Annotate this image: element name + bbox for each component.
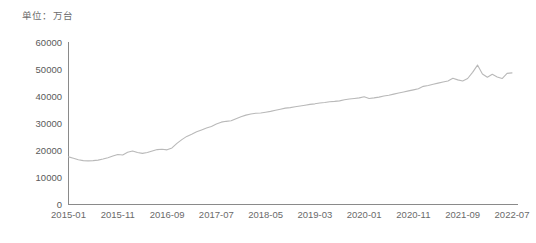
y-axis-tick-labels: 6000050000400003000020000100000 <box>36 37 62 210</box>
y-axis-tick-label: 50000 <box>36 64 62 75</box>
x-axis-tick-labels: 2015-012015-112016-092017-072018-052019-… <box>51 209 529 220</box>
y-axis-tick-label: 10000 <box>36 172 62 183</box>
x-axis-tick-label: 2018-05 <box>248 209 283 220</box>
line-chart-svg: 6000050000400003000020000100000 2015-012… <box>0 0 536 243</box>
x-axis-tick-label: 2015-11 <box>101 209 135 220</box>
y-axis-tick-label: 40000 <box>36 91 62 102</box>
x-axis-tick-label: 2015-01 <box>51 209 86 220</box>
chart-container: 单位：万台 6000050000400003000020000100000 20… <box>0 0 536 243</box>
y-axis-tick-label: 30000 <box>36 118 62 129</box>
x-axis-tick-label: 2022-07 <box>495 209 530 220</box>
data-series-line <box>69 65 513 161</box>
x-axis-tick-label: 2020-11 <box>396 209 430 220</box>
x-axis-tick-label: 2020-01 <box>347 209 382 220</box>
x-axis-tick-label: 2019-03 <box>297 209 332 220</box>
x-axis-tick-label: 2017-07 <box>199 209 234 220</box>
x-axis-tick-label: 2016-09 <box>150 209 185 220</box>
y-axis-tick-label: 60000 <box>36 37 62 48</box>
x-axis-tick-label: 2021-09 <box>445 209 480 220</box>
y-axis-tick-label: 20000 <box>36 145 62 156</box>
